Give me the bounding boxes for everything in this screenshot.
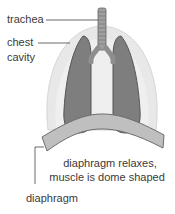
- caption-line1: diaphragm relaxes,: [58, 157, 162, 170]
- chest-cavity-label-line2: cavity: [7, 51, 35, 64]
- chest-cavity-label-line1: chest: [7, 36, 33, 49]
- caption-line2: muscle is dome shaped: [46, 171, 168, 184]
- diaphragm-leader-line: [35, 147, 44, 184]
- trachea-label: trachea: [7, 13, 44, 26]
- diaphragm-label: diaphragm: [26, 192, 78, 205]
